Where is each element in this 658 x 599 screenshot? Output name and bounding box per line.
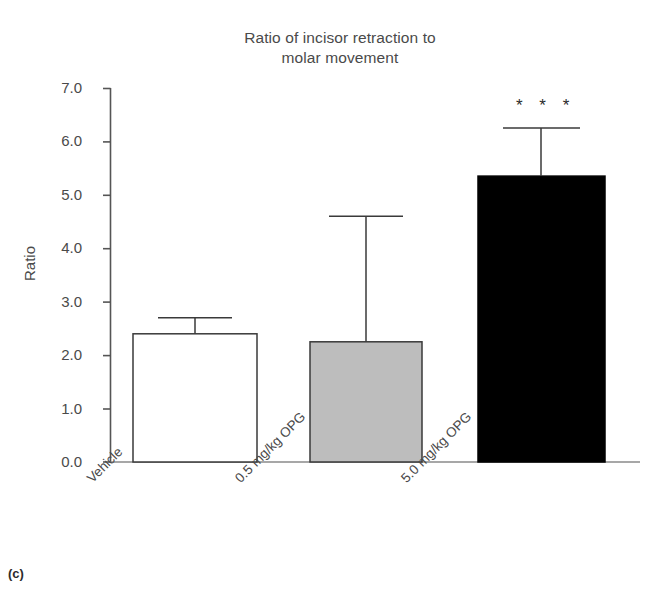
panel-caption: (c)	[8, 566, 24, 581]
significance-asterisks: * * *	[516, 96, 575, 116]
bar-opg-0-5	[310, 342, 422, 462]
plot-area	[0, 0, 658, 599]
bar-opg-5-0	[478, 176, 605, 462]
bar-vehicle	[133, 334, 257, 462]
figure-panel-c: Ratio of incisor retraction to molar mov…	[0, 0, 658, 599]
